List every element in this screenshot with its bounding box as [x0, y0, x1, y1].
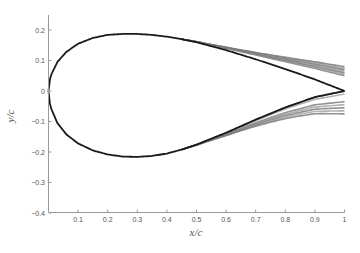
y-axis-label: y/c — [4, 109, 16, 123]
y-tick-label: 0.1 — [35, 57, 45, 64]
x-tick-label: 0.3 — [132, 216, 142, 223]
x-tick-label: 0.8 — [280, 216, 290, 223]
x-tick-label: 0.4 — [162, 216, 172, 223]
y-tick-label: 0.2 — [35, 27, 45, 34]
x-tick-label: 0.5 — [192, 216, 202, 223]
x-tick-label: 0.9 — [310, 216, 320, 223]
x-axis: 0.10.20.30.40.50.60.70.80.91 — [49, 210, 347, 224]
x-axis-label: x/c — [189, 226, 203, 238]
y-axis: 0.20.10−0.1−0.2−0.3−0.4 — [31, 15, 51, 217]
lower-surface-curve — [49, 91, 345, 157]
airfoil-chart: 0.20.10−0.1−0.2−0.3−0.4 0.10.20.30.40.50… — [0, 0, 360, 253]
plot-curves — [49, 34, 345, 157]
x-tick-label: 1 — [343, 216, 347, 223]
x-ticks: 0.10.20.30.40.50.60.70.80.91 — [73, 210, 346, 224]
y-tick-label: −0.2 — [31, 149, 45, 156]
y-tick-label: −0.4 — [31, 210, 45, 217]
x-tick-label: 0.2 — [103, 216, 113, 223]
lower-variant-curve — [182, 114, 345, 150]
x-tick-label: 0.1 — [73, 216, 83, 223]
x-tick-label: 0.7 — [251, 216, 261, 223]
x-tick-label: 0.6 — [221, 216, 231, 223]
y-tick-label: 0 — [41, 88, 45, 95]
y-tick-label: −0.3 — [31, 179, 45, 186]
y-tick-label: −0.1 — [31, 118, 45, 125]
